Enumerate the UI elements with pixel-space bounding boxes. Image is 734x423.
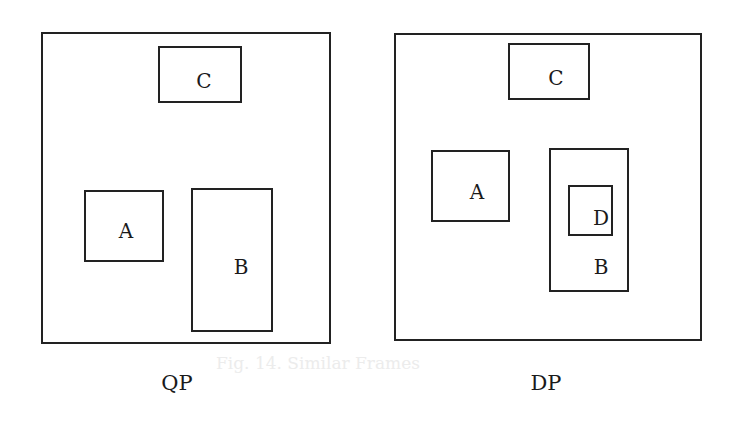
qp-region-a-label: A <box>119 219 133 243</box>
dp-region-d-label: D <box>593 206 609 230</box>
dp-region-a-label: A <box>470 180 484 204</box>
qp-region-c-label: C <box>196 69 211 93</box>
qp-caption: QP <box>161 371 192 395</box>
qp-region-b-label: B <box>234 255 249 279</box>
dp-region-c-label: C <box>548 66 563 90</box>
dp-caption: DP <box>531 371 562 395</box>
qp-region-b <box>191 188 273 332</box>
show-through-caption: Fig. 14. Similar Frames <box>216 353 420 373</box>
dp-region-b-label: B <box>594 255 609 279</box>
